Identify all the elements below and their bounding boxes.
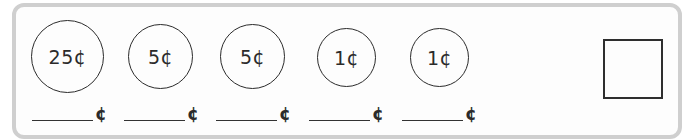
cent-sign: ¢ xyxy=(187,103,199,125)
coin-penny: 1¢ xyxy=(410,28,469,87)
answer-blank-3[interactable]: ¢ xyxy=(216,103,291,125)
coin-nickel: 5¢ xyxy=(220,24,285,89)
answer-blank-4[interactable]: ¢ xyxy=(309,103,384,125)
coin-quarter: 25¢ xyxy=(31,20,104,93)
cent-sign: ¢ xyxy=(372,103,384,125)
coin-label: 1¢ xyxy=(334,47,359,69)
answer-blank-5[interactable]: ¢ xyxy=(402,103,477,125)
answer-line[interactable] xyxy=(309,120,370,121)
coin-nickel: 5¢ xyxy=(128,24,193,89)
answer-line[interactable] xyxy=(402,120,463,121)
total-answer-box[interactable] xyxy=(603,39,663,99)
answer-blank-2[interactable]: ¢ xyxy=(124,103,199,125)
coin-label: 25¢ xyxy=(49,46,87,68)
cent-sign: ¢ xyxy=(95,103,107,125)
answer-line[interactable] xyxy=(216,120,277,121)
coin-label: 5¢ xyxy=(240,46,265,68)
cent-sign: ¢ xyxy=(279,103,291,125)
answer-line[interactable] xyxy=(32,120,93,121)
coin-label: 5¢ xyxy=(148,46,173,68)
answer-blank-1[interactable]: ¢ xyxy=(32,103,107,125)
coin-penny: 1¢ xyxy=(317,28,376,87)
answer-line[interactable] xyxy=(124,120,185,121)
coin-label: 1¢ xyxy=(427,47,452,69)
cent-sign: ¢ xyxy=(465,103,477,125)
